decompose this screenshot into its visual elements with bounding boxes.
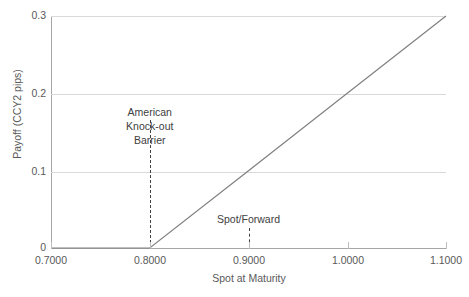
- x-tick-label-0.9000: 0.9000: [214, 254, 284, 266]
- x-tick-0.7000: [51, 242, 52, 249]
- barrier-annotation-line-1: American: [100, 105, 200, 119]
- x-tick-label-0.8000: 0.8000: [115, 254, 185, 266]
- y-tick-label-0.2: 0.2: [24, 88, 46, 99]
- payoff-chart: 0.3 0.2 0.1 0 Payoff (CCY2 pips) America…: [0, 0, 469, 297]
- y-tick-label-0.3: 0.3: [24, 10, 46, 21]
- x-tick-label-0.7000: 0.7000: [16, 254, 86, 266]
- plot-area: American Knock-out Barrier Spot/Forward: [51, 16, 446, 248]
- x-tick-1.0000: [348, 242, 349, 249]
- x-tick-label-1.0000: 1.0000: [313, 254, 383, 266]
- x-tick-1.1000: [446, 242, 447, 249]
- y-tick-label-0: 0: [24, 242, 46, 253]
- x-tick-0.8000: [150, 242, 151, 249]
- barrier-annotation-line-3: Barrier: [100, 133, 200, 147]
- x-tick-label-1.1000: 1.1000: [411, 254, 469, 266]
- y-axis-title: Payoff (CCY2 pips): [11, 44, 23, 184]
- barrier-annotation-line-2: Knock-out: [100, 119, 200, 133]
- spot-forward-annotation: Spot/Forward: [199, 212, 299, 226]
- x-tick-0.9000: [249, 242, 250, 249]
- y-tick-label-0.1: 0.1: [24, 166, 46, 177]
- x-axis-title: Spot at Maturity: [51, 272, 447, 284]
- barrier-annotation: American Knock-out Barrier: [100, 105, 200, 147]
